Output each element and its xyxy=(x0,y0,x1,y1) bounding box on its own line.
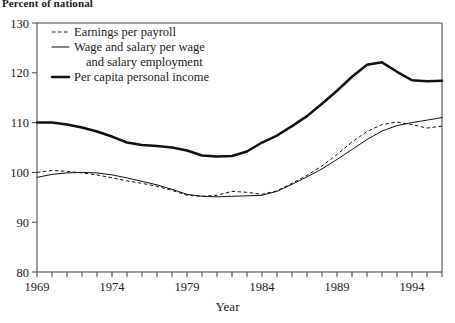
x-tick-label: 1979 xyxy=(175,280,200,294)
y-tick-label: 110 xyxy=(11,116,29,130)
x-tick-label: 1969 xyxy=(25,280,50,294)
y-tick-label: 130 xyxy=(10,17,29,31)
legend-label: Per capita personal income xyxy=(74,70,209,84)
x-tick-label: 1994 xyxy=(400,280,426,294)
legend-label: Wage and salary per wage xyxy=(74,40,205,54)
x-tick-label: 1974 xyxy=(100,280,126,294)
x-tick-label: 1989 xyxy=(325,280,350,294)
x-axis-label: Year xyxy=(0,299,455,315)
y-tick-label: 120 xyxy=(10,66,29,80)
line-chart-plot: 8090100110120130196919741979198419891994… xyxy=(0,0,455,323)
y-tick-label: 90 xyxy=(17,216,30,230)
y-tick-label: 80 xyxy=(17,266,30,280)
series-line-dashed xyxy=(37,122,442,196)
x-tick-label: 1984 xyxy=(250,280,276,294)
series-line-thin-solid xyxy=(37,118,442,197)
chart-container: Percent of national 80901001101201301969… xyxy=(0,0,455,323)
legend-label: Earnings per payroll xyxy=(74,25,177,39)
y-tick-label: 100 xyxy=(10,166,29,180)
legend-label-cont: and salary employment xyxy=(86,55,203,69)
